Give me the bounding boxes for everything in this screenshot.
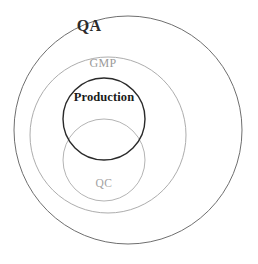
circle-qa: [14, 16, 242, 244]
diagram-canvas: [0, 0, 258, 264]
label-production: Production: [0, 91, 208, 104]
label-qa: QA: [0, 18, 178, 34]
nested-circles-diagram: QA GMP Production QC: [0, 0, 258, 264]
label-qc: QC: [0, 178, 208, 190]
label-gmp: GMP: [0, 57, 206, 69]
circle-gmp: [30, 57, 186, 213]
